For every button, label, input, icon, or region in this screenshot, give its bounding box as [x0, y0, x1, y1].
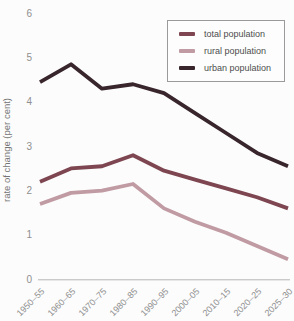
y-tick-label-2: 2 [26, 185, 32, 196]
legend-label-total-population: total population [204, 29, 265, 39]
x-tick-label-5: 1990–95 [139, 286, 171, 318]
legend-label-rural-population: rural population [204, 46, 266, 56]
legend-item-urban-population: urban population [179, 63, 284, 74]
y-tick-label-0: 0 [26, 274, 32, 285]
x-tick-label-1: 1950–55 [15, 286, 47, 318]
y-axis-title: rate of change (per cent) [1, 98, 12, 202]
y-tick-label-5: 5 [26, 52, 32, 63]
total-population-line [40, 155, 288, 208]
legend-label-urban-population: urban population [204, 63, 271, 73]
x-tick-label-9: 2025–30 [263, 286, 294, 318]
x-tick-label-6: 2000–05 [170, 286, 202, 318]
rural-population-swatch [179, 49, 195, 53]
x-tick-label-7: 2010–15 [201, 286, 233, 318]
legend: total population rural population urban … [167, 20, 285, 82]
x-tick-label-2: 1960–65 [46, 286, 78, 318]
x-tick-label-4: 1980–85 [108, 286, 140, 318]
y-tick-label-6: 6 [26, 8, 32, 19]
y-tick-label-3: 3 [26, 141, 32, 152]
x-tick-label-3: 1970–75 [77, 286, 109, 318]
legend-item-total-population: total population [179, 29, 284, 40]
legend-item-rural-population: rural population [179, 46, 284, 57]
population-growth-rate-chart: rate of change (per cent) 01234561950–55… [0, 0, 294, 321]
urban-population-swatch [179, 66, 195, 70]
y-tick-label-1: 1 [26, 229, 32, 240]
y-tick-label-4: 4 [26, 96, 32, 107]
x-tick-label-8: 2020–25 [232, 286, 264, 318]
total-population-swatch [179, 32, 195, 36]
